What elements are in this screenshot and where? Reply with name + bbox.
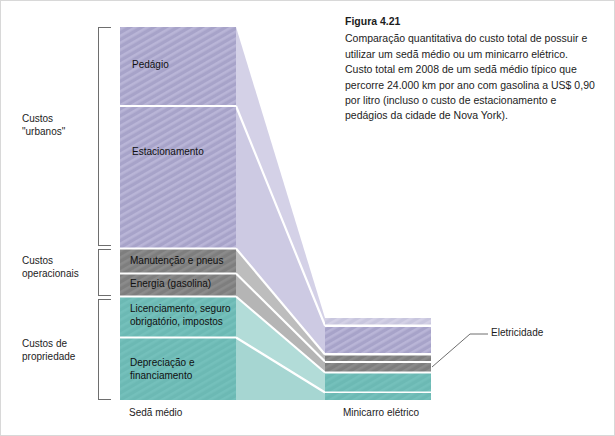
figure-caption-body: Comparação quantitativa do custo total d…	[345, 31, 597, 123]
segment-manutencao-mini	[325, 356, 431, 362]
segment-energia-mini	[325, 363, 431, 372]
segment-licenciamento-sedan	[120, 297, 236, 337]
ribbon-group	[236, 27, 325, 400]
figure-caption-title: Figura 4.21	[345, 14, 597, 29]
segment-energia-sedan	[120, 274, 236, 296]
figure-root: Custos "urbanos" Custos operacionais Cus…	[0, 0, 615, 436]
group-label-custos-propriedade: Custos de propriedade	[22, 338, 102, 363]
bar-sedan	[120, 27, 236, 400]
segment-pedagio-sedan	[120, 27, 236, 105]
segment-estacionamento-mini	[325, 327, 431, 353]
bar-minicarro	[325, 318, 431, 400]
category-label-sedan: Sedã médio	[129, 407, 182, 418]
segment-licenciamento-mini	[325, 374, 431, 392]
segment-pedagio-mini	[325, 318, 431, 325]
segment-estacionamento-sedan	[120, 107, 236, 248]
callout-label-eletricidade: Eletricidade	[491, 327, 543, 338]
group-label-custos-operacionais: Custos operacionais	[22, 255, 102, 280]
group-label-custos-urbanos: Custos "urbanos"	[22, 113, 102, 138]
callout-leader	[432, 334, 488, 367]
segment-depreciacao-mini	[325, 393, 431, 400]
figure-caption: Figura 4.21 Comparação quantitativa do c…	[345, 14, 597, 124]
segment-manutencao-sedan	[120, 249, 236, 273]
category-label-minicarro: Minicarro elétrico	[343, 407, 419, 418]
segment-depreciacao-sedan	[120, 338, 236, 400]
